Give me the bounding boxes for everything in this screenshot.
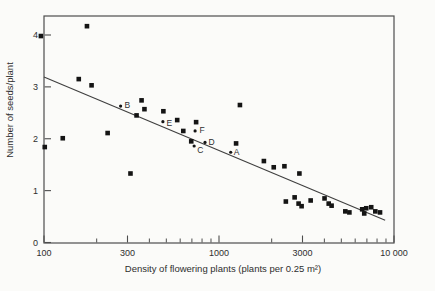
- point-label-D: D: [209, 137, 215, 147]
- point-label-E: E: [166, 118, 172, 128]
- data-point: [238, 103, 243, 108]
- y-tick-label: 3: [33, 82, 38, 92]
- data-point: [360, 207, 365, 212]
- data-point: [373, 209, 378, 214]
- data-point: [189, 139, 194, 144]
- data-point: [271, 165, 276, 170]
- labeled-point-B: [119, 104, 122, 107]
- x-axis-label: Density of flowering plants (plants per …: [125, 263, 321, 274]
- point-label-F: F: [200, 125, 205, 135]
- plot-frame: [44, 16, 394, 243]
- data-point: [262, 159, 267, 164]
- x-tick-label: 1000: [209, 248, 229, 258]
- data-point: [369, 205, 374, 210]
- y-tick-label: 0: [33, 238, 38, 248]
- x-tick-label: 300: [120, 248, 135, 258]
- data-point: [322, 196, 327, 201]
- data-point: [329, 203, 334, 208]
- data-point: [85, 24, 90, 29]
- data-point: [378, 210, 383, 215]
- labeled-point-E: [161, 120, 164, 123]
- data-point: [308, 198, 313, 203]
- x-tick-label: 3000: [292, 248, 312, 258]
- data-point: [343, 209, 348, 214]
- data-point: [284, 199, 289, 204]
- y-axis-label: Number of seeds/plant: [4, 62, 15, 158]
- data-point: [347, 210, 352, 215]
- labeled-point-A: [229, 151, 232, 154]
- data-point: [299, 204, 304, 209]
- data-point: [362, 211, 367, 216]
- data-point: [364, 206, 369, 211]
- data-point: [128, 171, 133, 176]
- data-point: [76, 77, 81, 82]
- labeled-point-F: [193, 129, 196, 132]
- x-tick-label: 10 000: [380, 248, 408, 258]
- data-point: [234, 141, 239, 146]
- data-point: [89, 83, 94, 88]
- scatter-plot-figure: 1003001000300010 00001234ABCDEFDensity o…: [0, 0, 435, 291]
- point-label-A: A: [234, 147, 240, 157]
- data-point: [297, 171, 302, 176]
- y-tick-label: 4: [33, 30, 38, 40]
- regression-line: [44, 77, 385, 220]
- data-point: [42, 145, 47, 150]
- data-point: [175, 118, 180, 123]
- data-point: [142, 107, 147, 112]
- data-point: [134, 113, 139, 118]
- x-tick-label: 100: [36, 248, 51, 258]
- data-point: [194, 120, 199, 125]
- scatter-plot: 1003001000300010 00001234ABCDEFDensity o…: [0, 0, 435, 291]
- y-tick-label: 2: [33, 134, 38, 144]
- y-tick-label: 1: [33, 186, 38, 196]
- data-point: [105, 131, 110, 136]
- data-point: [161, 109, 166, 114]
- labeled-point-D: [203, 141, 206, 144]
- data-point: [60, 136, 65, 141]
- data-point: [282, 164, 287, 169]
- point-label-B: B: [125, 100, 131, 110]
- data-point: [181, 129, 186, 134]
- data-point: [292, 195, 297, 200]
- labeled-point-C: [193, 144, 196, 147]
- point-label-C: C: [197, 145, 203, 155]
- data-point: [39, 34, 44, 39]
- data-point: [139, 98, 144, 103]
